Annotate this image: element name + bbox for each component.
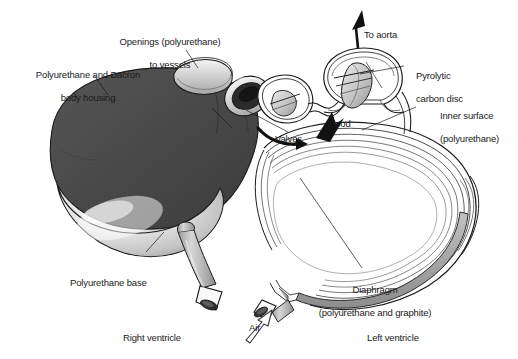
label-openings-line1: Openings (polyurethane)	[119, 36, 220, 47]
label-inner-surface: Inner surface (polyurethane)	[430, 98, 499, 156]
label-diaphragm: Diaphragm (polyurethane and graphite)	[290, 272, 450, 330]
label-blood: Blood	[327, 118, 351, 130]
label-to-aorta: To aorta	[364, 29, 397, 41]
label-valves: Valves	[275, 133, 302, 145]
artificial-heart-diagram: Openings (polyurethane) to vessels Polyu…	[0, 0, 518, 359]
label-pyrolytic-line1: Pyrolytic	[416, 70, 451, 81]
label-diaphragm-line1: Diaphragm	[352, 284, 397, 295]
label-air: Air	[249, 322, 260, 334]
label-polyurethane-base: Polyurethane base	[70, 277, 147, 289]
label-diaphragm-line2: (polyurethane and graphite)	[319, 307, 432, 318]
label-inner-surface-line2: (polyurethane)	[440, 133, 499, 144]
label-body-housing-line2: body housing	[61, 92, 116, 103]
label-body-housing: Polyurethane and Dacron body housing	[8, 57, 158, 115]
label-body-housing-line1: Polyurethane and Dacron	[36, 69, 140, 80]
label-right-ventricle: Right ventricle	[123, 332, 181, 344]
label-left-ventricle: Left ventricle	[367, 332, 419, 344]
label-inner-surface-line1: Inner surface	[440, 110, 494, 121]
